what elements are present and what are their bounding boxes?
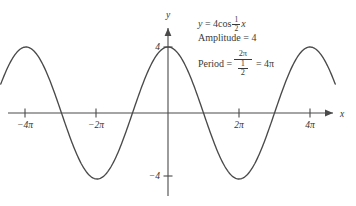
- period-inner-half-fraction: 12: [238, 60, 248, 78]
- x-tick-label-neg2pi: −2π: [88, 120, 104, 130]
- amplitude-label: Amplitude: [198, 32, 241, 43]
- x-tick-label-pos4pi: 4π: [305, 120, 315, 130]
- period-fraction: 2π12: [234, 50, 252, 78]
- x-axis: [8, 110, 333, 117]
- equation-equals: =: [205, 18, 211, 29]
- amplitude-equals: =: [243, 32, 249, 43]
- equation-x: x: [241, 18, 245, 29]
- period-inner-half-denominator: 2: [238, 68, 248, 78]
- equation-half-numerator: 1: [232, 16, 240, 24]
- period-annotation: Period =2π12 = 4π: [198, 50, 274, 78]
- amplitude-value: 4: [251, 32, 256, 43]
- x-axis-label: x: [339, 109, 345, 119]
- period-label: Period: [198, 58, 224, 69]
- x-tick-label-pos2pi: 2π: [234, 120, 244, 130]
- cosine-graph-svg: −4π −2π 2π 4π 4 −4 x y: [0, 0, 356, 206]
- y-axis-label: y: [165, 10, 171, 20]
- equation-annotation: y = 4cos12x: [198, 16, 246, 32]
- y-tick-label-neg4: −4: [149, 171, 160, 181]
- x-tick-label-neg4pi: −4π: [17, 120, 33, 130]
- equation-y: y: [198, 18, 202, 29]
- period-fraction-denominator: 12: [234, 59, 252, 78]
- equation-half-fraction: 12: [232, 16, 240, 32]
- x-axis-arrowhead: [325, 110, 333, 117]
- period-equals-2: =: [256, 58, 262, 69]
- period-inner-half-numerator: 1: [238, 60, 248, 69]
- y-axis: [165, 28, 172, 196]
- graph-figure: −4π −2π 2π 4π 4 −4 x y y = 4cos12x Ampli…: [0, 0, 356, 206]
- period-value: 4π: [264, 58, 274, 69]
- period-equals: =: [227, 58, 233, 69]
- period-fraction-numerator: 2π: [234, 50, 252, 59]
- y-tick-label-pos4: 4: [155, 42, 160, 52]
- y-axis-arrowhead: [165, 28, 172, 36]
- amplitude-annotation: Amplitude = 4: [198, 33, 256, 43]
- equation-coefficient: 4cos: [213, 18, 231, 29]
